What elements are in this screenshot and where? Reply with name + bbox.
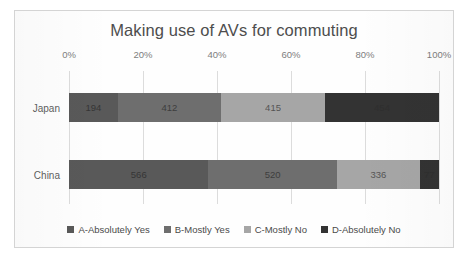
bar-segment[interactable]: 566 (69, 160, 208, 189)
legend-item[interactable]: B-Mostly Yes (164, 224, 230, 235)
bar-segment[interactable]: 77 (420, 160, 439, 189)
legend-swatch-icon (164, 226, 171, 233)
category-label: China (34, 169, 60, 180)
x-tick-label: 80% (355, 49, 374, 60)
bar-row: Japan194412415454 (69, 93, 439, 122)
x-tick-label: 40% (207, 49, 226, 60)
x-tick-label: 100% (427, 49, 451, 60)
legend-label: C-Mostly No (255, 224, 307, 235)
bar-segment[interactable]: 194 (69, 93, 118, 122)
plot-area: Japan194412415454China56652033677 (69, 71, 439, 204)
bar-segment-value: 77 (424, 169, 435, 180)
chart-title: Making use of AVs for commuting (15, 21, 453, 40)
stacked-bar: 194412415454 (69, 93, 439, 122)
bar-segment-value: 520 (265, 169, 281, 180)
bar-segment-value: 412 (162, 102, 178, 113)
legend-item[interactable]: D-Absolutely No (321, 224, 401, 235)
bar-segment-value: 415 (265, 102, 281, 113)
legend-label: D-Absolutely No (332, 224, 401, 235)
legend-label: A-Absolutely Yes (78, 224, 149, 235)
bar-row: China56652033677 (69, 160, 439, 189)
bar-segment[interactable]: 520 (208, 160, 336, 189)
chart-container: Making use of AVs for commuting 0%20%40%… (14, 10, 454, 248)
bar-segment[interactable]: 415 (221, 93, 325, 122)
x-axis-tick-labels: 0%20%40%60%80%100% (69, 49, 439, 63)
x-tick-label: 0% (62, 49, 76, 60)
category-label: Japan (33, 102, 60, 113)
legend-label: B-Mostly Yes (175, 224, 230, 235)
bar-segment-value: 336 (370, 169, 386, 180)
gridline (439, 71, 440, 204)
bar-segment-value: 566 (131, 169, 147, 180)
legend-item[interactable]: A-Absolutely Yes (67, 224, 149, 235)
legend-swatch-icon (321, 226, 328, 233)
legend-item[interactable]: C-Mostly No (244, 224, 307, 235)
bar-segment[interactable]: 336 (337, 160, 420, 189)
legend-swatch-icon (67, 226, 74, 233)
stacked-bar: 56652033677 (69, 160, 439, 189)
bar-segment[interactable]: 454 (325, 93, 439, 122)
bar-segment-value: 194 (85, 102, 101, 113)
x-tick-label: 60% (281, 49, 300, 60)
x-tick-label: 20% (133, 49, 152, 60)
legend-swatch-icon (244, 226, 251, 233)
chart-legend: A-Absolutely YesB-Mostly YesC-Mostly NoD… (15, 224, 453, 235)
bar-segment-value: 454 (374, 102, 390, 113)
bar-segment[interactable]: 412 (118, 93, 221, 122)
